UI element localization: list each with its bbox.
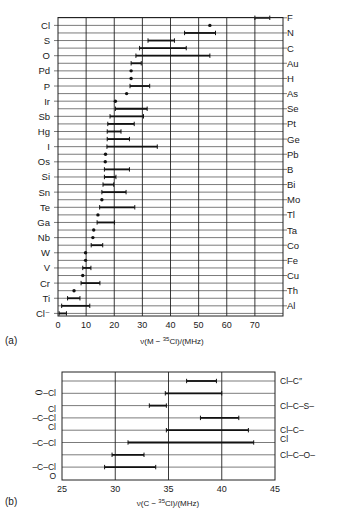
data-point — [92, 228, 95, 231]
data-point — [114, 99, 117, 102]
row-label: V — [44, 262, 51, 273]
panel-a-label: (a) — [5, 335, 17, 346]
row-label: Pt — [287, 118, 296, 129]
panel-a-chart: 010203040506070FClNSCOAuPdHPAsIrSeSbPtHg… — [36, 12, 300, 330]
data-point — [81, 274, 84, 277]
panel-b-chart: 2530354045⬭–ClCl–C–ClCl–C–Cl–C–ClOCl–C″C… — [32, 372, 315, 494]
panel-a-xlabel: ν(M − 35Cl)/(MHz) — [140, 336, 204, 346]
row-label: Si — [42, 171, 50, 182]
row-label: Au — [287, 58, 299, 69]
x-tick-label: 40 — [217, 484, 227, 494]
data-point — [129, 69, 132, 72]
data-point — [84, 251, 87, 254]
panel-b-xlabel: ν(C − 35Cl)/(MHz) — [137, 498, 200, 508]
row-label: As — [287, 88, 298, 99]
row-label: I — [47, 141, 50, 152]
data-point — [72, 289, 75, 292]
row-label: Cu — [287, 270, 299, 281]
structure-label: Cl–C–O– — [280, 450, 315, 460]
row-label: Al — [287, 300, 295, 311]
figure-canvas: 010203040506070FClNSCOAuPdHPAsIrSeSbPtHg… — [0, 0, 341, 527]
row-label: Nb — [38, 232, 50, 243]
x-tick-label: 40 — [165, 320, 175, 330]
x-tick-label: 0 — [55, 320, 60, 330]
x-tick-label: 20 — [109, 320, 119, 330]
row-label: Fe — [287, 255, 298, 266]
structure-label: ⬭–Cl — [35, 388, 56, 398]
row-label: Ir — [44, 96, 50, 107]
data-point — [125, 92, 128, 95]
x-tick-label: 50 — [194, 320, 204, 330]
row-label: F — [287, 12, 293, 23]
row-label: Th — [287, 285, 298, 296]
row-label: Hg — [38, 126, 50, 137]
row-label: Co — [287, 240, 299, 251]
x-tick-label: 45 — [270, 484, 280, 494]
row-label: Ti — [42, 293, 50, 304]
structure-label: Cl–C″ — [280, 376, 302, 386]
data-point — [208, 24, 211, 27]
structure-label: Cl — [48, 422, 56, 432]
row-label: C — [287, 43, 294, 54]
row-label: Cr — [40, 278, 50, 289]
row-label: Ga — [37, 217, 50, 228]
row-label: Se — [287, 103, 299, 114]
x-tick-label: 30 — [110, 484, 120, 494]
structure-label: O — [49, 471, 56, 481]
row-label: H — [287, 73, 294, 84]
x-tick-label: 10 — [81, 320, 91, 330]
data-point — [104, 153, 107, 156]
data-point — [100, 198, 103, 201]
row-label: S — [44, 35, 50, 46]
data-point — [104, 160, 107, 163]
row-label: Ge — [287, 134, 300, 145]
data-point — [96, 213, 99, 216]
x-tick-label: 35 — [163, 484, 173, 494]
row-label: O — [43, 50, 50, 61]
row-label: B — [287, 164, 293, 175]
row-label: N — [287, 27, 294, 38]
data-point — [129, 77, 132, 80]
row-label: Pd — [38, 65, 50, 76]
row-label: Mo — [287, 194, 300, 205]
data-point — [91, 236, 94, 239]
row-label: Bi — [287, 179, 295, 190]
row-label: Cl⁻ — [36, 308, 50, 319]
row-label: P — [44, 81, 50, 92]
x-tick-label: 30 — [137, 320, 147, 330]
structure-label: –C–Cl — [32, 438, 56, 448]
x-tick-label: 70 — [250, 320, 260, 330]
row-label: Tl — [287, 209, 295, 220]
structure-label: Cl — [280, 434, 288, 444]
x-tick-label: 25 — [57, 484, 67, 494]
row-label: Cl — [41, 20, 50, 31]
figure: 010203040506070FClNSCOAuPdHPAsIrSeSbPtHg… — [0, 0, 341, 527]
row-label: Os — [38, 156, 50, 167]
row-label: W — [41, 247, 50, 258]
x-tick-label: 60 — [222, 320, 232, 330]
structure-label: Cl–C–S– — [280, 401, 314, 411]
row-label: Te — [40, 202, 50, 213]
row-label: Pb — [287, 149, 299, 160]
row-label: Sb — [38, 111, 50, 122]
data-point — [84, 259, 87, 262]
panel-b-label: (b) — [5, 496, 17, 507]
row-label: Ta — [287, 225, 298, 236]
row-label: Sn — [38, 187, 50, 198]
